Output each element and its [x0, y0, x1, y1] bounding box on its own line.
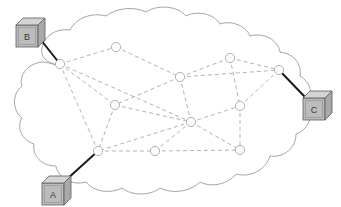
- cloud-outline-path: [15, 7, 311, 194]
- host-cube-front-face: [303, 98, 325, 120]
- router-node-r4: [225, 53, 234, 62]
- router-node-r10: [150, 146, 159, 155]
- router-node-r9: [93, 146, 102, 155]
- router-node-r8: [235, 101, 244, 110]
- router-node-r6: [110, 100, 119, 109]
- host-cube-front-face: [42, 183, 64, 205]
- cloud-group: [15, 7, 311, 194]
- host-c: C: [303, 91, 332, 120]
- router-node-r11: [235, 145, 244, 154]
- host-b: B: [16, 18, 45, 47]
- router-node-r3: [175, 72, 184, 81]
- router-node-r7: [186, 117, 195, 126]
- network-diagram-canvas: BCA: [0, 0, 341, 207]
- host-a: A: [42, 176, 71, 205]
- router-node-r5: [274, 65, 283, 74]
- router-node-r1: [55, 59, 64, 68]
- network-cloud-diagram: BCA: [0, 0, 341, 207]
- router-node-r2: [111, 42, 120, 51]
- host-cube-front-face: [16, 25, 38, 47]
